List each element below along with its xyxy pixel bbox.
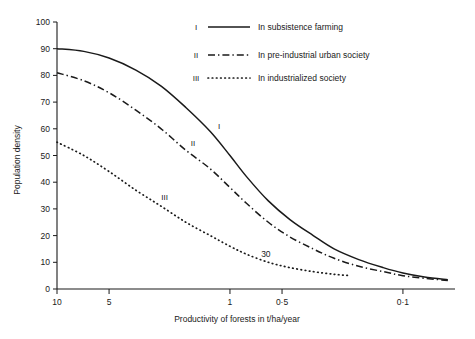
curve-iii	[57, 142, 351, 276]
y-tick-label: 70	[41, 97, 51, 107]
y-tick-label: 20	[41, 231, 51, 241]
annotation-30: 30	[261, 249, 271, 259]
y-axis-title: Population density	[12, 125, 22, 195]
data-curves	[57, 49, 448, 281]
chart-container: 0102030405060708090100 10510·50·1 IIIIII…	[0, 0, 475, 339]
legend-key-ii: II	[194, 51, 198, 60]
legend-label-i: In subsistence farming	[258, 22, 343, 32]
y-tick-label: 100	[36, 17, 50, 27]
x-axis-group: 10510·50·1	[52, 289, 455, 307]
legend-key-iii: III	[193, 74, 200, 83]
y-axis-ticks: 0102030405060708090100	[36, 17, 57, 294]
curve-inline-labels: IIIIII	[161, 122, 220, 202]
population-density-vs-forest-productivity-chart: 0102030405060708090100 10510·50·1 IIIIII…	[0, 0, 475, 339]
x-axis-title: Productivity of forests in t/ha/year	[174, 314, 300, 324]
y-tick-label: 50	[41, 151, 51, 161]
chart-annotations: 30	[261, 249, 271, 259]
y-tick-label: 40	[41, 177, 51, 187]
curve-i	[57, 49, 448, 280]
x-axis-ticks: 10510·50·1	[52, 289, 409, 307]
y-tick-label: 80	[41, 70, 51, 80]
legend-label-ii: In pre-industrial urban society	[258, 50, 370, 60]
x-tick-label: 1	[228, 297, 233, 307]
y-tick-label: 30	[41, 204, 51, 214]
curve-label-iii: III	[161, 193, 168, 202]
x-tick-label: 5	[107, 297, 112, 307]
y-tick-label: 10	[41, 257, 51, 267]
y-axis-group: 0102030405060708090100	[36, 17, 57, 294]
legend-label-iii: In industrialized society	[258, 73, 347, 83]
x-tick-label: 10	[52, 297, 62, 307]
curve-label-i: I	[218, 122, 220, 131]
x-tick-label: 0·5	[276, 297, 289, 307]
y-tick-label: 60	[41, 124, 51, 134]
curve-label-ii: II	[191, 139, 195, 148]
legend-key-i: I	[195, 23, 197, 32]
y-tick-label: 90	[41, 44, 51, 54]
x-tick-label: 0·1	[397, 297, 410, 307]
chart-legend: IIn subsistence farmingIIIn pre-industri…	[193, 22, 371, 83]
y-tick-label: 0	[45, 284, 50, 294]
